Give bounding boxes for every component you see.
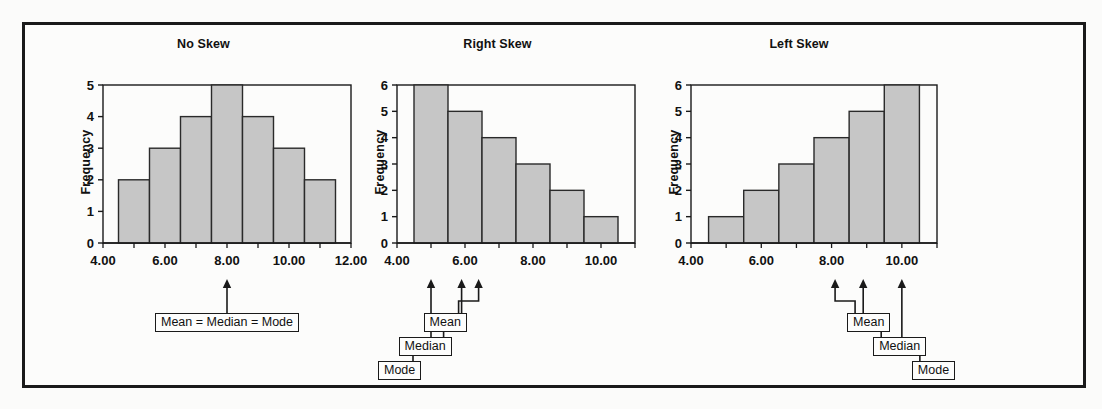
svg-text:8.00: 8.00	[819, 253, 844, 268]
svg-text:4.00: 4.00	[678, 253, 703, 268]
svg-text:1: 1	[675, 209, 682, 224]
svg-text:6.00: 6.00	[749, 253, 774, 268]
annotation-label-mean: Mean	[424, 313, 467, 332]
annotation-group-left-skew: MeanMedianMode	[619, 275, 979, 385]
annotation-label-mode: Mode	[912, 361, 955, 380]
chart-title-left-skew: Left Skew	[619, 37, 979, 51]
svg-text:6.00: 6.00	[152, 253, 177, 268]
annotation-label-mean-median-mode: Mean = Median = Mode	[155, 313, 299, 332]
plot-area-left-skew: Frequency 01234564.006.008.0010.00	[619, 75, 979, 275]
figure-frame: No Skew Frequency 0123454.006.008.0010.0…	[22, 22, 1086, 388]
svg-text:10.00: 10.00	[886, 253, 919, 268]
y-axis-title-right-skew: Frequency	[373, 117, 387, 207]
svg-text:4.00: 4.00	[384, 253, 409, 268]
annotation-label-median: Median	[873, 337, 926, 356]
svg-text:6.00: 6.00	[452, 253, 477, 268]
svg-text:0: 0	[381, 236, 388, 251]
chart-panel-left-skew: Left Skew Frequency 01234564.006.008.001…	[619, 25, 979, 385]
annotation-label-mode: Mode	[378, 361, 421, 380]
y-axis-title-left-skew: Frequency	[667, 117, 681, 207]
svg-text:4.00: 4.00	[90, 253, 115, 268]
svg-text:6: 6	[381, 78, 388, 93]
svg-text:1: 1	[381, 209, 388, 224]
svg-text:6: 6	[675, 78, 682, 93]
svg-text:5: 5	[87, 78, 94, 93]
y-axis-title-no-skew: Frequency	[79, 117, 93, 207]
svg-text:0: 0	[87, 236, 94, 251]
annotation-label-mean: Mean	[847, 313, 890, 332]
svg-text:10.00: 10.00	[273, 253, 306, 268]
svg-text:10.00: 10.00	[585, 253, 618, 268]
svg-text:8.00: 8.00	[520, 253, 545, 268]
svg-text:0: 0	[675, 236, 682, 251]
svg-text:8.00: 8.00	[214, 253, 239, 268]
annotation-label-median: Median	[399, 337, 452, 356]
